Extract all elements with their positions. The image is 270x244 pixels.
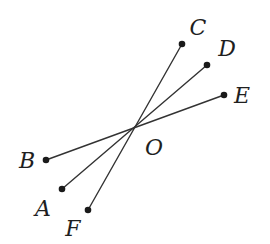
geometry-diagram: C D E O B A F xyxy=(0,0,270,244)
point-D xyxy=(204,62,211,69)
label-A: A xyxy=(33,196,51,221)
point-F xyxy=(85,207,92,214)
label-D: D xyxy=(217,36,236,61)
point-C xyxy=(179,41,186,48)
point-B xyxy=(43,157,50,164)
label-O: O xyxy=(145,135,163,160)
label-E: E xyxy=(233,83,250,108)
segment-EB xyxy=(46,95,224,160)
label-B: B xyxy=(18,148,35,173)
label-F: F xyxy=(64,216,81,241)
label-C: C xyxy=(190,15,207,40)
point-E xyxy=(221,92,228,99)
point-A xyxy=(59,186,66,193)
